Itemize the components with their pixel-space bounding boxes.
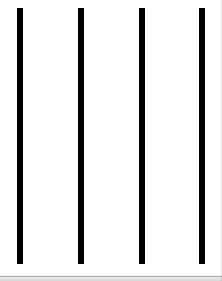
bar-2: [78, 8, 84, 264]
bar-chart-canvas: [0, 0, 222, 281]
bar-1: [17, 8, 23, 264]
bar-3: [139, 8, 145, 264]
bars-layer: [0, 0, 222, 281]
bar-4: [199, 8, 205, 264]
